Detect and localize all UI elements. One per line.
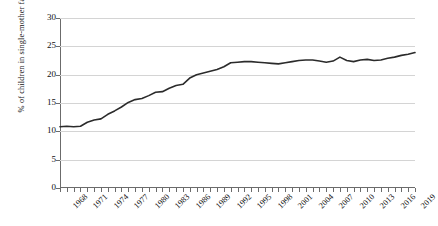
x-tick-mark-1972 — [87, 188, 88, 192]
x-tick-label-1989: 1989 — [215, 193, 233, 211]
x-tick-mark-1985 — [176, 188, 177, 192]
x-tick-mark-2000 — [278, 188, 279, 192]
x-tick-mark-2015 — [381, 188, 382, 192]
x-tick-mark-1987 — [190, 188, 191, 192]
x-tick-mark-2019 — [408, 188, 409, 192]
x-tick-mark-1994 — [238, 188, 239, 192]
x-tick-mark-1971 — [80, 188, 81, 192]
x-tick-label-2007: 2007 — [338, 193, 356, 211]
x-tick-mark-1993 — [231, 188, 232, 192]
x-tick-mark-2020 — [415, 188, 416, 192]
x-tick-label-1998: 1998 — [277, 193, 295, 211]
x-tick-mark-1973 — [94, 188, 95, 192]
x-tick-mark-1977 — [121, 188, 122, 192]
y-axis-label: % of children in single-mother families — [17, 0, 26, 130]
x-tick-mark-2006 — [319, 188, 320, 192]
y-tick-label-25: 25 — [34, 41, 56, 50]
x-tick-label-1977: 1977 — [133, 193, 151, 211]
x-tick-mark-1968 — [60, 188, 61, 192]
x-tick-mark-1983 — [162, 188, 163, 192]
x-tick-mark-2017 — [395, 188, 396, 192]
x-tick-mark-2004 — [306, 188, 307, 192]
x-tick-mark-2005 — [313, 188, 314, 192]
x-tick-mark-2003 — [299, 188, 300, 192]
x-tick-mark-1969 — [67, 188, 68, 192]
x-tick-mark-1996 — [251, 188, 252, 192]
x-tick-mark-1984 — [169, 188, 170, 192]
y-tick-label-0: 0 — [34, 183, 56, 192]
x-tick-mark-1998 — [265, 188, 266, 192]
x-tick-mark-1991 — [217, 188, 218, 192]
x-tick-mark-2012 — [360, 188, 361, 192]
x-tick-label-1986: 1986 — [195, 193, 213, 211]
x-tick-label-1980: 1980 — [154, 193, 172, 211]
x-tick-mark-2018 — [401, 188, 402, 192]
x-tick-label-1992: 1992 — [236, 193, 254, 211]
x-tick-mark-1999 — [272, 188, 273, 192]
plot-area — [60, 18, 415, 188]
y-tick-label-15: 15 — [34, 98, 56, 107]
x-tick-mark-2007 — [326, 188, 327, 192]
x-tick-mark-2010 — [347, 188, 348, 192]
x-tick-mark-2001 — [285, 188, 286, 192]
data-series-line — [60, 18, 415, 188]
x-tick-mark-2009 — [340, 188, 341, 192]
x-tick-label-1968: 1968 — [72, 193, 90, 211]
x-tick-label-1974: 1974 — [113, 193, 131, 211]
x-tick-mark-1981 — [149, 188, 150, 192]
x-tick-mark-2011 — [354, 188, 355, 192]
x-tick-mark-1970 — [74, 188, 75, 192]
x-tick-mark-1980 — [142, 188, 143, 192]
x-tick-mark-1976 — [115, 188, 116, 192]
x-tick-label-1995: 1995 — [256, 193, 274, 211]
x-tick-mark-2008 — [333, 188, 334, 192]
x-tick-label-1971: 1971 — [92, 193, 110, 211]
x-tick-label-2010: 2010 — [359, 193, 377, 211]
y-tick-label-30: 30 — [34, 13, 56, 22]
x-tick-label-2019: 2019 — [420, 193, 438, 211]
x-tick-mark-2014 — [374, 188, 375, 192]
x-tick-label-2004: 2004 — [318, 193, 336, 211]
x-tick-label-1983: 1983 — [174, 193, 192, 211]
x-tick-mark-1992 — [224, 188, 225, 192]
x-tick-mark-1975 — [108, 188, 109, 192]
x-tick-mark-1997 — [258, 188, 259, 192]
x-tick-mark-2013 — [367, 188, 368, 192]
x-tick-mark-1990 — [210, 188, 211, 192]
x-tick-label-2001: 2001 — [297, 193, 315, 211]
x-tick-mark-1989 — [203, 188, 204, 192]
x-tick-mark-2016 — [388, 188, 389, 192]
y-axis-tick-labels: 051015202530 — [30, 0, 56, 226]
x-tick-mark-1995 — [244, 188, 245, 192]
x-tick-mark-1988 — [197, 188, 198, 192]
y-tick-label-10: 10 — [34, 126, 56, 135]
x-tick-label-2013: 2013 — [379, 193, 397, 211]
x-tick-mark-1978 — [128, 188, 129, 192]
x-tick-mark-2002 — [292, 188, 293, 192]
y-tick-label-20: 20 — [34, 70, 56, 79]
x-tick-mark-1986 — [183, 188, 184, 192]
x-tick-mark-1979 — [135, 188, 136, 192]
x-tick-mark-1982 — [156, 188, 157, 192]
y-tick-label-5: 5 — [34, 155, 56, 164]
x-tick-label-2016: 2016 — [400, 193, 418, 211]
